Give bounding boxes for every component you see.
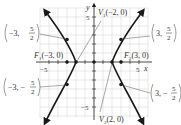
svg-text:5: 5 bbox=[167, 25, 171, 33]
label-point-upper-left: −3, 5 2 bbox=[5, 24, 39, 42]
leader-v2 bbox=[100, 63, 112, 112]
svg-text:3, −: 3, − bbox=[155, 89, 168, 98]
svg-text:5: 5 bbox=[30, 25, 34, 33]
point-lower-left-dot bbox=[65, 83, 69, 87]
label-point-lower-left: −3, − 5 2 bbox=[4, 78, 40, 96]
leader-upper-right bbox=[122, 36, 150, 39]
hyperbola-diagram: x y −5 5 5 −5 V1(−2, 0) V2(2, 0) F1(−3, … bbox=[0, 0, 181, 125]
y-axis-label: y bbox=[85, 3, 90, 12]
svg-text:2: 2 bbox=[30, 34, 34, 42]
tick-label-x-neg5: −5 bbox=[40, 66, 48, 74]
svg-text:5: 5 bbox=[31, 79, 35, 87]
label-f1: F1(−3, 0) bbox=[33, 51, 64, 61]
svg-text:−3, −: −3, − bbox=[8, 83, 26, 92]
leader-v1 bbox=[77, 21, 101, 61]
tick-label-x-5: 5 bbox=[136, 66, 140, 74]
svg-text:V1(−2, 0): V1(−2, 0) bbox=[98, 8, 128, 18]
label-v2: V2(2, 0) bbox=[99, 115, 124, 125]
left-branch bbox=[46, 12, 77, 123]
svg-text:5: 5 bbox=[172, 85, 176, 93]
leader-lower-left bbox=[40, 85, 66, 87]
svg-text:2: 2 bbox=[172, 94, 176, 102]
focus-f2-dot bbox=[119, 60, 123, 64]
svg-text:2: 2 bbox=[31, 88, 35, 96]
diagram-canvas: x y −5 5 5 −5 V1(−2, 0) V2(2, 0) F1(−3, … bbox=[0, 0, 181, 125]
x-axis-label: x bbox=[143, 64, 148, 73]
point-upper-right-dot bbox=[119, 38, 123, 42]
svg-text:V2(2, 0): V2(2, 0) bbox=[99, 115, 124, 125]
focus-f1-dot bbox=[65, 60, 69, 64]
label-point-lower-right: 3, − 5 2 bbox=[151, 84, 181, 102]
tick-label-y-neg5: −5 bbox=[81, 104, 89, 112]
svg-text:−3,: −3, bbox=[9, 29, 20, 38]
svg-text:2: 2 bbox=[167, 34, 171, 42]
label-point-upper-right: 3, 5 2 bbox=[152, 24, 176, 42]
svg-text:3,: 3, bbox=[156, 29, 162, 38]
tick-label-y-5: 5 bbox=[86, 14, 90, 22]
point-upper-left-dot bbox=[65, 38, 69, 42]
point-lower-right-dot bbox=[119, 83, 123, 87]
svg-text:F1(−3, 0): F1(−3, 0) bbox=[33, 51, 64, 61]
center-dot bbox=[92, 60, 96, 64]
label-v1: V1(−2, 0) bbox=[98, 8, 128, 18]
label-f2: F2(3, 0) bbox=[123, 51, 149, 61]
svg-text:F2(3, 0): F2(3, 0) bbox=[123, 51, 149, 61]
